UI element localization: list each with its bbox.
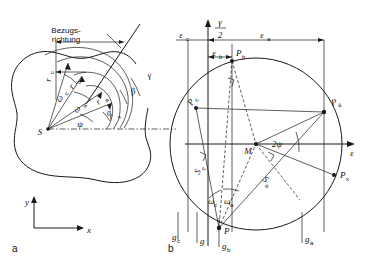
svg-text:b: b bbox=[227, 247, 231, 253]
dim-arrow-ea-right bbox=[318, 38, 324, 42]
svg-text:a: a bbox=[264, 183, 271, 190]
reference-direction-label-line1: Bezugs- bbox=[51, 26, 81, 35]
body-contour-top bbox=[21, 51, 136, 64]
angle-arc-omega-a-right bbox=[223, 189, 239, 191]
svg-text:a: a bbox=[310, 240, 314, 246]
panel-tag-b: b bbox=[168, 243, 174, 254]
chord-m-px bbox=[256, 144, 334, 175]
label-psi: ψ bbox=[77, 119, 83, 129]
right-angle-mark-pb bbox=[228, 78, 234, 86]
angle-arc-beta bbox=[120, 90, 127, 104]
svg-text:a: a bbox=[81, 102, 88, 109]
right-angle-mark-sc bbox=[200, 152, 206, 161]
svg-text:r: r bbox=[43, 78, 53, 82]
right-panel-group: ε c ε b ε a γ 2 ε M P b P a P x bbox=[168, 17, 355, 254]
label-g-a: g a bbox=[305, 234, 314, 246]
svg-text:c: c bbox=[200, 166, 207, 171]
label-omega-a-right: ω a bbox=[224, 196, 234, 208]
svg-text:x: x bbox=[117, 114, 122, 121]
svg-text:a: a bbox=[337, 101, 342, 108]
label-omega-c-right: ω c bbox=[208, 196, 217, 208]
center-point-s-label: S bbox=[38, 127, 43, 137]
svg-text:c: c bbox=[63, 91, 70, 96]
figure-root: Bezugs- richtung S r c r b r a r x ω bbox=[0, 0, 367, 262]
svg-text:c: c bbox=[177, 238, 180, 244]
label-pb: P b bbox=[235, 48, 246, 60]
axis-gamma-numerator: γ bbox=[218, 17, 222, 27]
label-pc: P c bbox=[185, 94, 200, 109]
svg-text:P: P bbox=[339, 170, 346, 180]
chord-m-pa bbox=[256, 112, 324, 144]
svg-text:r: r bbox=[94, 96, 103, 106]
label-g-b: g b bbox=[222, 241, 231, 253]
chord-p-pa bbox=[219, 112, 324, 228]
axis-y-arrowhead bbox=[31, 196, 37, 203]
label-epsilon-c: ε bbox=[179, 30, 183, 40]
axis-gamma-arrowhead bbox=[205, 19, 211, 27]
reference-direction-leader bbox=[107, 34, 121, 48]
axis-x-label: x bbox=[86, 225, 91, 235]
axis-epsilon-label: ε bbox=[350, 148, 354, 158]
label-r-c: r c bbox=[43, 71, 55, 82]
chord-pb-m-dashed bbox=[232, 61, 256, 144]
label-m: M bbox=[243, 146, 252, 156]
left-panel-group: Bezugs- richtung S r c r b r a r x ω bbox=[11, 24, 176, 254]
rb-dim-arrow-left bbox=[56, 70, 61, 74]
label-pa: P a bbox=[329, 96, 343, 111]
label-gamma: γ bbox=[146, 70, 152, 81]
label-px: P x bbox=[339, 170, 349, 182]
label-epsilon-c-sub: c bbox=[186, 36, 189, 42]
dim-arrow-ea-left bbox=[208, 38, 214, 42]
svg-text:x: x bbox=[346, 176, 349, 182]
arrowhead-ra bbox=[97, 92, 102, 99]
axis-x-arrowhead bbox=[77, 225, 84, 231]
label-epsilon-a-sub: a bbox=[267, 36, 271, 42]
axis-gamma-denominator: 2 bbox=[218, 30, 223, 40]
label-sc: S c bbox=[192, 163, 207, 177]
technical-diagram: Bezugs- richtung S r c r b r a r x ω bbox=[0, 0, 367, 262]
label-epsilon-b: ε bbox=[212, 48, 216, 58]
reference-direction-label-line2: richtung bbox=[52, 35, 80, 44]
label-2psi: 2ψ bbox=[272, 139, 283, 149]
svg-text:c: c bbox=[214, 202, 217, 208]
svg-text:c: c bbox=[49, 71, 55, 74]
rc-dim-arrow-right bbox=[119, 40, 124, 44]
angle-arc-omega-a bbox=[74, 92, 91, 100]
arrowhead-rc bbox=[65, 63, 71, 70]
svg-text:P: P bbox=[235, 48, 242, 58]
label-p: P bbox=[223, 226, 230, 236]
dim-arrow-eb-right bbox=[226, 55, 232, 59]
axis-y-label: y bbox=[24, 197, 29, 207]
chord-pc-pa bbox=[196, 108, 324, 112]
right-angle-mark-sa bbox=[268, 152, 274, 161]
axis-epsilon-arrowhead bbox=[347, 141, 355, 147]
label-g: g bbox=[200, 236, 205, 246]
label-r-b: r b bbox=[66, 75, 82, 91]
panel-tag-a: a bbox=[12, 243, 18, 254]
svg-text:a: a bbox=[230, 202, 234, 208]
svg-text:γ: γ bbox=[146, 70, 152, 81]
label-epsilon-a: ε bbox=[260, 30, 264, 40]
label-sa: S a bbox=[259, 174, 274, 190]
